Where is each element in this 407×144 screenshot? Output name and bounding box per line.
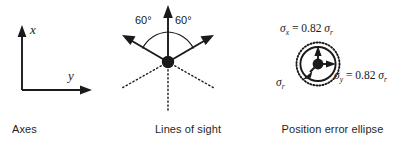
axes-drawing: x y [0, 0, 118, 112]
figure-position-error-ellipse: x y Axes [0, 0, 407, 144]
panel-position-error-ellipse: σx = 0.82 σr σy = 0.82 σr σr Position er… [258, 0, 407, 144]
ellipse-center-dot [313, 59, 324, 70]
sight-ray-up-arrowhead [163, 5, 173, 18]
x-axis-arrowhead [18, 25, 27, 37]
y-axis-label: y [68, 68, 74, 84]
panel-lines-of-sight: 60° 60° Lines of sight [118, 0, 258, 144]
dotted-ray-left [122, 62, 168, 88]
lines-of-sight-drawing: 60° 60° [118, 0, 258, 112]
angle-label-right: 60° [175, 14, 192, 26]
sigma-x-equation: σx = 0.82 σr [280, 22, 333, 34]
angle-arc-right [168, 32, 194, 49]
angle-arc-left [143, 32, 169, 49]
caption-lines-of-sight: Lines of sight [118, 123, 258, 136]
sight-ray-right-line [168, 41, 204, 62]
sight-ray-right-arrowhead [201, 35, 215, 45]
station-point-dot [162, 56, 174, 68]
x-axis-label: x [30, 22, 36, 38]
sigma-r-label: σr [276, 76, 285, 88]
dotted-ray-right [168, 62, 214, 88]
caption-position-error-ellipse: Position error ellipse [258, 123, 407, 136]
error-ellipse-drawing: σx = 0.82 σr σy = 0.82 σr σr [258, 0, 407, 112]
panel-axes: x y Axes [0, 0, 118, 144]
error-ellipse-svg [258, 0, 407, 112]
axes-svg [0, 0, 118, 112]
angle-label-left: 60° [135, 14, 152, 26]
sight-ray-left-line [132, 41, 168, 62]
y-axis-arrowhead [80, 86, 92, 95]
sigma-y-equation: σy = 0.82 σr [334, 69, 387, 81]
caption-axes: Axes [0, 123, 37, 136]
sight-ray-left-arrowhead [122, 35, 136, 45]
